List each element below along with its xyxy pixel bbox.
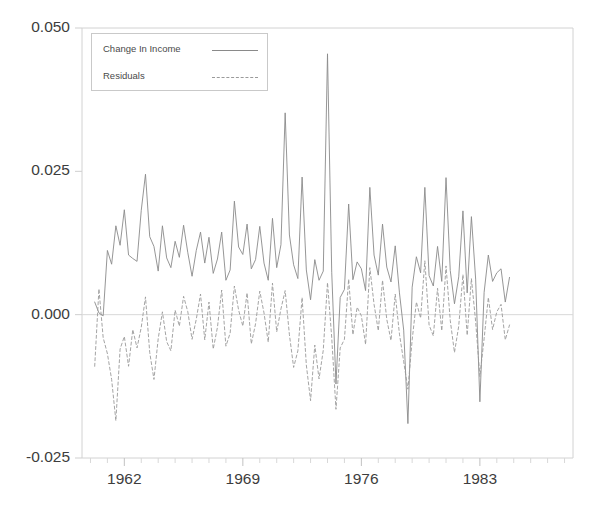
y-tick-label: 0.050	[0, 18, 70, 36]
legend-swatch-solid-line	[212, 50, 258, 52]
legend-item-change-in-income: Change In Income	[92, 36, 267, 65]
x-tick-label: 1983	[440, 470, 520, 488]
y-tick-label: 0.000	[0, 305, 70, 323]
x-tick-label: 1962	[84, 470, 164, 488]
x-tick-marks	[90, 458, 564, 466]
chart-legend: Change In Income Residuals	[91, 33, 268, 91]
x-tick-label: 1969	[203, 470, 283, 488]
series-line-change-in-income	[95, 54, 510, 424]
y-tick-label: -0.025	[0, 448, 70, 466]
legend-item-residuals: Residuals	[92, 63, 267, 92]
x-tick-label: 1976	[321, 470, 401, 488]
legend-swatch-dashed-line	[212, 77, 258, 79]
legend-label-change-in-income: Change In Income	[103, 43, 181, 54]
chart-figure: 0.0500.0250.000-0.025 1962196919761983 C…	[0, 0, 602, 507]
y-tick-marks	[75, 28, 82, 458]
data-series-layer	[95, 54, 510, 424]
axes-frame	[82, 28, 573, 458]
legend-label-residuals: Residuals	[103, 70, 145, 81]
y-tick-label: 0.025	[0, 161, 70, 179]
series-line-residuals	[95, 261, 510, 421]
